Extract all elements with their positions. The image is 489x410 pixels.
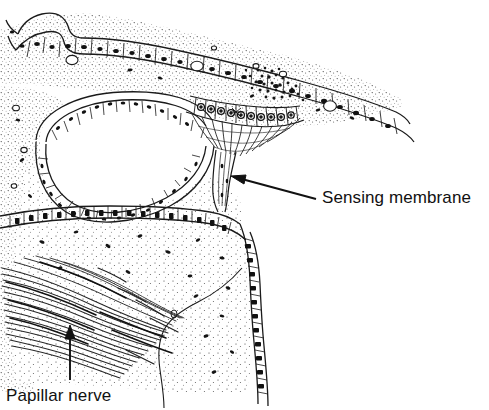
sensing-membrane-arrow — [231, 175, 316, 199]
sensing-membrane-label: Sensing membrane — [322, 188, 471, 208]
histology-figure: Sensing membrane Papillar nerve — [0, 0, 489, 410]
papillar-nerve-label: Papillar nerve — [6, 386, 111, 406]
